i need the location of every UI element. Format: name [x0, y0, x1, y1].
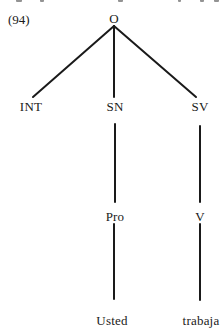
node-sn: SN — [106, 100, 123, 113]
node-int: INT — [20, 100, 42, 113]
edge-o-sv — [114, 26, 196, 97]
node-root-o: O — [109, 12, 119, 25]
leaf-usted: Usted — [96, 314, 127, 327]
edge-o-int — [33, 26, 114, 97]
syntax-tree-edges — [0, 0, 222, 336]
leaf-trabaja: trabaja — [183, 314, 220, 327]
node-v: V — [195, 210, 205, 223]
node-pro: Pro — [106, 210, 125, 223]
node-sv: SV — [191, 100, 208, 113]
